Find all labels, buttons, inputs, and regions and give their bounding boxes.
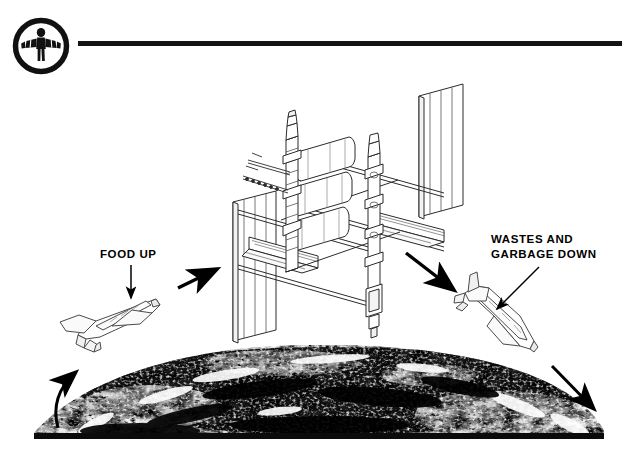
leader-wastes-down <box>497 267 539 309</box>
label-wastes-down-line2: GARBAGE DOWN <box>491 247 597 262</box>
arrow-earth-return <box>552 366 594 409</box>
diagram-page: FOOD UP WASTES AND GARBAGE DOWN <box>0 0 622 450</box>
arrow-station-to-shuttle <box>406 253 454 290</box>
label-wastes-down-line1: WASTES AND <box>491 232 597 247</box>
arrow-earth-launch <box>56 372 76 428</box>
arrows-layer <box>0 0 622 450</box>
label-wastes-down: WASTES AND GARBAGE DOWN <box>491 232 597 262</box>
label-food-up: FOOD UP <box>100 247 157 262</box>
arrow-shuttle-to-station <box>178 269 217 288</box>
